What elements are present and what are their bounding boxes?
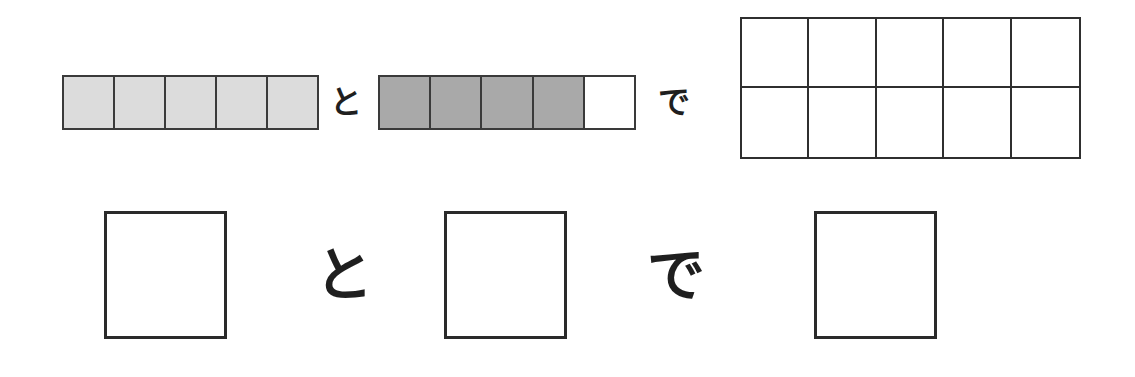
ten-frame-cell — [1012, 19, 1079, 88]
ten-frame-cell — [742, 88, 809, 157]
ten-frame-cell — [809, 88, 876, 157]
bar-b-cell-filled — [482, 77, 533, 128]
connector-de-bottom: で — [647, 246, 705, 304]
ten-frame-cell — [944, 19, 1011, 88]
bar-a-cell — [217, 77, 268, 128]
bar-b-four-filled — [378, 75, 636, 130]
ten-frame-cell — [1012, 88, 1079, 157]
connector-to-top: と — [330, 86, 362, 118]
answer-box-3[interactable] — [814, 211, 937, 339]
bar-b-cell-empty — [585, 77, 634, 128]
bar-a-cell — [64, 77, 115, 128]
connector-de-top: で — [658, 86, 690, 118]
ten-frame-cell — [742, 19, 809, 88]
bar-a-cell — [166, 77, 217, 128]
bar-b-cell-filled — [534, 77, 585, 128]
bar-a-cell — [115, 77, 166, 128]
ten-frame-cell — [877, 88, 944, 157]
bar-b-cell-filled — [431, 77, 482, 128]
bar-a-cell — [268, 77, 317, 128]
bar-a-five-filled — [62, 75, 319, 130]
bar-b-cell-filled — [380, 77, 431, 128]
ten-frame — [740, 17, 1081, 159]
answer-box-2[interactable] — [444, 211, 567, 339]
ten-frame-cell — [809, 19, 876, 88]
ten-frame-cell — [944, 88, 1011, 157]
connector-to-bottom: と — [315, 246, 373, 304]
answer-box-1[interactable] — [104, 211, 227, 339]
ten-frame-cell — [877, 19, 944, 88]
